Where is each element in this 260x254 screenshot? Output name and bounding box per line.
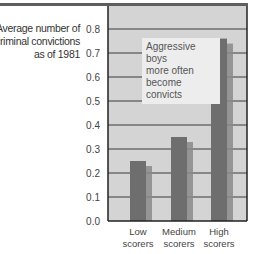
bar — [130, 161, 146, 221]
x-category-label: scorers — [203, 238, 234, 249]
annotation-line-2: more often — [146, 65, 216, 77]
bar-chart: 0.00.10.20.30.40.50.60.70.8 LowscorersMe… — [0, 0, 260, 254]
y-tick-label: 0.6 — [86, 72, 100, 83]
x-category-label: High — [209, 226, 229, 237]
y-ticks: 0.00.10.20.30.40.50.60.70.8 — [86, 24, 100, 227]
annotation-line-1: Aggressive boys — [146, 41, 216, 65]
bar — [171, 137, 187, 221]
x-categories: LowscorersMediumscorersHighscorers — [122, 226, 234, 249]
y-tick-label: 0.7 — [86, 48, 100, 59]
annotation-box: Aggressive boys more often become convic… — [142, 38, 220, 104]
y-tick-label: 0.4 — [86, 120, 100, 131]
y-tick-label: 0.1 — [86, 192, 100, 203]
x-category-label: Medium — [162, 226, 196, 237]
y-tick-label: 0.8 — [86, 24, 100, 35]
y-tick-label: 0.2 — [86, 168, 100, 179]
y-tick-label: 0.5 — [86, 96, 100, 107]
x-category-label: scorers — [163, 238, 194, 249]
y-tick-label: 0.0 — [86, 216, 100, 227]
x-category-label: scorers — [122, 238, 153, 249]
y-tick-label: 0.3 — [86, 144, 100, 155]
x-category-label: Low — [129, 226, 147, 237]
annotation-line-3: become convicts — [146, 77, 216, 101]
